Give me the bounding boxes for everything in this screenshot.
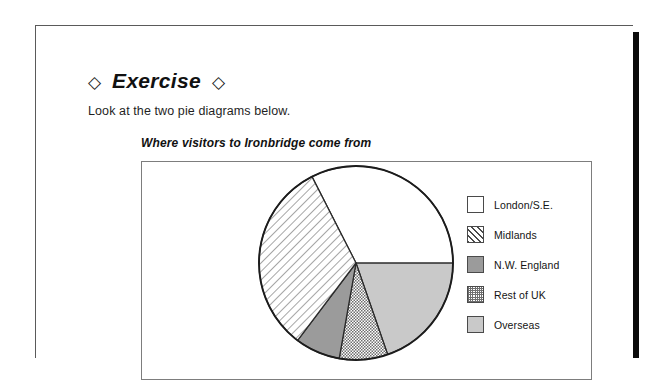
- page-title: Exercise: [112, 69, 201, 93]
- diamond-right-icon: ◇: [212, 74, 225, 91]
- legend-item-overseas: Overseas: [467, 316, 559, 333]
- chart-container: London/S.E. Midlands N.W. England Rest o…: [141, 161, 592, 380]
- worksheet-page: ◇ Exercise ◇ Look at the two pie diagram…: [35, 25, 633, 358]
- legend-item-nw-england: N.W. England: [467, 256, 559, 273]
- legend-swatch-midlands: [467, 226, 484, 243]
- pie-chart-svg: [253, 160, 459, 366]
- pie-chart: [253, 160, 459, 366]
- legend-item-midlands: Midlands: [467, 226, 559, 243]
- legend-swatch-nw-england: [467, 256, 484, 273]
- legend-label-rest-of-uk: Rest of UK: [494, 289, 546, 301]
- legend-swatch-london-se: [467, 196, 484, 213]
- exercise-heading: ◇ Exercise ◇: [88, 68, 225, 94]
- legend-swatch-overseas: [467, 316, 484, 333]
- legend-label-london-se: London/S.E.: [494, 199, 553, 211]
- legend-label-nw-england: N.W. England: [494, 259, 559, 271]
- legend-label-midlands: Midlands: [494, 229, 537, 241]
- legend-swatch-rest-of-uk: [467, 286, 484, 303]
- legend-label-overseas: Overseas: [494, 319, 540, 331]
- legend-item-rest-of-uk: Rest of UK: [467, 286, 559, 303]
- chart-legend: London/S.E. Midlands N.W. England Rest o…: [467, 196, 559, 333]
- chart-title: Where visitors to Ironbridge come from: [141, 136, 371, 150]
- legend-item-london-se: London/S.E.: [467, 196, 559, 213]
- diamond-left-icon: ◇: [88, 74, 101, 91]
- instruction-text: Look at the two pie diagrams below.: [88, 104, 290, 118]
